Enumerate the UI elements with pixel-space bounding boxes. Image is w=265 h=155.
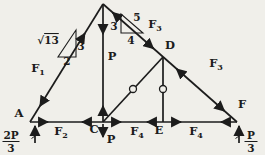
member-force-arrows [40, 13, 229, 123]
force-arrow-F1-toward-A [40, 99, 44, 106]
point-label-F: F [238, 97, 247, 111]
point-label-E: E [155, 123, 164, 137]
force-label-F3-upper: F3 [148, 17, 162, 33]
force-label-F4-left: F4 [130, 124, 144, 140]
force-label-P-member: P [108, 49, 117, 63]
truss-free-body-diagram: A C D E F F1 F2 F3 F3 F4 F4 P P √13 3 2 … [0, 0, 265, 155]
reaction-label-A-numerator: 2P [3, 129, 18, 141]
dim-label-right-run-4: 4 [127, 34, 134, 46]
force-label-F1: F1 [31, 61, 45, 77]
point-label-C: C [89, 122, 98, 136]
zero-force-circle-CD [130, 86, 137, 93]
dim-label-left-rise-3: 3 [77, 40, 84, 52]
load-label-P-at-C: P [107, 132, 116, 146]
dim-label-sqrt13: √13 [37, 34, 59, 46]
force-label-F2: F2 [54, 124, 68, 140]
dim-label-right-rise-3: 3 [110, 20, 117, 32]
point-label-A: A [14, 106, 25, 120]
reaction-label-F-denominator: 3 [247, 142, 254, 154]
reaction-label-F-numerator: P [247, 129, 255, 141]
dim-label-right-hyp-5: 5 [133, 11, 140, 23]
zero-force-circle-DE [160, 86, 167, 93]
zero-force-markers [130, 86, 167, 93]
point-label-D: D [165, 38, 175, 52]
force-label-F4-right: F4 [189, 124, 203, 140]
force-label-F3-lower: F3 [209, 56, 223, 72]
force-arrow-F3-toward-apex [113, 13, 119, 18]
force-arrow-F3-toward-D-upper [147, 43, 153, 48]
force-arrow-F3-toward-D-lower [177, 69, 183, 74]
force-arrow-F3-toward-F [218, 106, 224, 111]
dim-label-left-run-2: 2 [63, 55, 70, 67]
reaction-label-A-denominator: 3 [7, 142, 14, 154]
